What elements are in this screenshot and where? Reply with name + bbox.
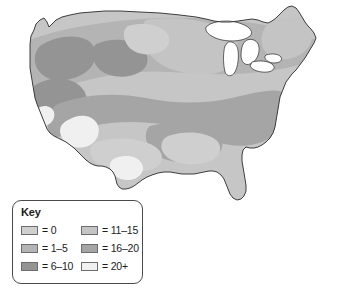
legend-label-16-20: = 16–20 xyxy=(102,242,139,254)
legend-swatch-20-plus xyxy=(81,262,98,271)
legend-entry-6-10: = 6–10 xyxy=(21,257,79,275)
choropleth-figure: Key = 0 = 11–15 = 1–5 = 16–20 = 6–10 xyxy=(0,0,337,299)
legend-label-11-15: = 11–15 xyxy=(102,224,138,236)
legend-entry-1-5: = 1–5 xyxy=(21,239,79,257)
legend-label-20-plus: = 20+ xyxy=(102,260,128,272)
legend-swatch-6-10 xyxy=(21,262,38,271)
legend-swatch-0 xyxy=(21,226,38,235)
legend-entry-20-plus: = 20+ xyxy=(81,257,143,275)
legend-label-1-5: = 1–5 xyxy=(42,242,68,254)
legend-entries: = 0 = 11–15 = 1–5 = 16–20 = 6–10 = 20+ xyxy=(21,221,135,275)
legend-swatch-11-15 xyxy=(81,226,98,235)
legend-label-0: = 0 xyxy=(42,224,56,236)
map-legend: Key = 0 = 11–15 = 1–5 = 16–20 = 6–10 xyxy=(12,200,143,284)
legend-swatch-16-20 xyxy=(81,244,98,253)
legend-title: Key xyxy=(21,206,135,218)
legend-entry-0: = 0 xyxy=(21,221,79,239)
legend-entry-11-15: = 11–15 xyxy=(81,221,143,239)
legend-swatch-1-5 xyxy=(21,244,38,253)
region-class-20plus-socal xyxy=(38,145,69,172)
legend-label-6-10: = 6–10 xyxy=(42,260,73,272)
legend-entry-16-20: = 16–20 xyxy=(81,239,143,257)
